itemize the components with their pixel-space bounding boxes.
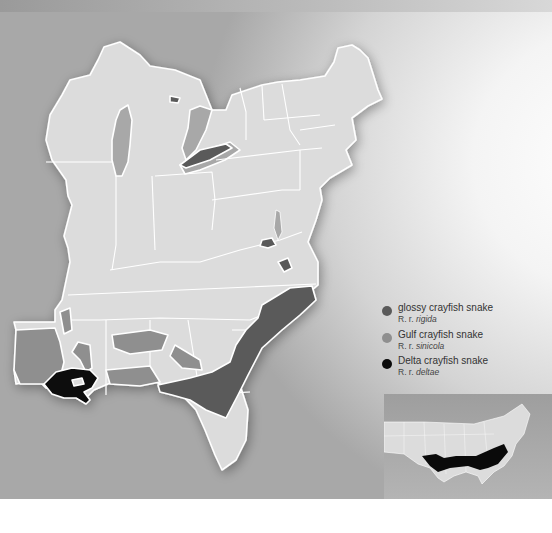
legend-common-name: Gulf crayfish snake [398,329,483,340]
legend-scientific-name: R. r. sinicola [398,341,444,351]
us-locator-map [384,394,552,499]
legend-swatch-icon [382,306,392,316]
range-sinicola-panhandle [106,366,160,386]
legend-common-name: glossy crayfish snake [398,302,493,313]
legend-item-sinicola: Gulf crayfish snake R. r. sinicola [380,329,550,353]
lake-pontchartrain [72,378,84,386]
us-outline [384,404,530,484]
map-legend: glossy crayfish snake R. r. rigida Gulf … [380,298,552,394]
legend-scientific-name: R. r. deltae [398,367,439,377]
legend-scientific-name: R. r. rigida [398,314,437,324]
range-rigida-va [260,238,276,248]
range-map: glossy crayfish snake R. r. rigida Gulf … [0,0,552,499]
legend-item-rigida: glossy crayfish snake R. r. rigida [380,302,550,326]
legend-common-name: Delta crayfish snake [398,355,488,366]
legend-swatch-icon [382,359,392,369]
range-sinicola-al [112,330,168,354]
isle-royale [170,96,180,103]
us-locator-inset [384,394,552,499]
legend-swatch-icon [382,333,392,343]
legend-item-deltae: Delta crayfish snake R. r. deltae [380,355,550,379]
